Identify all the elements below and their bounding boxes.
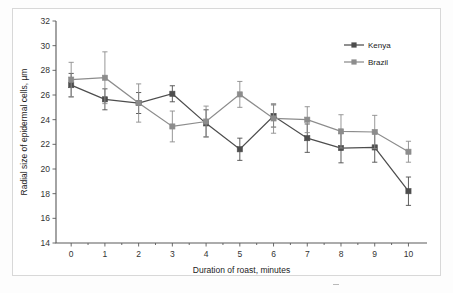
data-point-marker (170, 91, 175, 96)
y-axis-title: Radial size of epidermal cells, µm (19, 69, 29, 196)
y-tick-label: 22 (41, 139, 51, 149)
x-tick-label: 9 (372, 249, 377, 259)
y-tick-label: 14 (41, 238, 51, 248)
legend-label: Kenya (368, 41, 391, 50)
legend-label: Brazil (368, 58, 388, 67)
data-point-marker (271, 116, 276, 121)
legend-marker-swatch (351, 42, 356, 47)
legend-marker-swatch (351, 59, 356, 64)
data-point-marker (170, 124, 175, 129)
y-tick-label: 16 (41, 213, 51, 223)
x-tick-label: 3 (170, 249, 175, 259)
y-tick-label: 26 (41, 90, 51, 100)
y-tick-label: 18 (41, 189, 51, 199)
x-tick-label: 2 (136, 249, 141, 259)
data-point-marker (406, 149, 411, 154)
y-tick-label: 28 (41, 65, 51, 75)
data-point-marker (102, 75, 107, 80)
y-tick-label: 32 (41, 16, 51, 26)
legend-entry-brazil[interactable]: Brazil (344, 58, 388, 67)
legend-entry-kenya[interactable]: Kenya (344, 41, 391, 50)
data-point-marker (406, 189, 411, 194)
x-tick-label: 7 (305, 249, 310, 259)
data-point-marker (338, 129, 343, 134)
data-point-marker (305, 136, 310, 141)
data-point-marker (237, 92, 242, 97)
data-point-marker (305, 117, 310, 122)
x-tick-label: 0 (69, 249, 74, 259)
x-tick-label: 6 (271, 249, 276, 259)
data-point-marker (136, 100, 141, 105)
data-point-marker (372, 129, 377, 134)
y-tick-label: 20 (41, 164, 51, 174)
y-tick-label: 30 (41, 41, 51, 51)
x-tick-label: 4 (204, 249, 209, 259)
x-tick-label: 10 (404, 249, 414, 259)
line-chart-plot: 14161820222426283032012345678910Duration… (13, 9, 440, 275)
data-point-marker (203, 119, 208, 124)
x-tick-label: 5 (237, 249, 242, 259)
data-point-marker (69, 77, 74, 82)
x-axis-title: Duration of roast, minutes (193, 265, 290, 275)
x-tick-label: 1 (103, 249, 108, 259)
chart-frame: 14161820222426283032012345678910Duration… (12, 8, 441, 276)
figure-canvas: 14161820222426283032012345678910Duration… (0, 0, 453, 293)
x-tick-label: 8 (339, 249, 344, 259)
y-tick-label: 24 (41, 115, 51, 125)
data-point-marker (237, 147, 242, 152)
page-artifact-mark (333, 284, 339, 285)
